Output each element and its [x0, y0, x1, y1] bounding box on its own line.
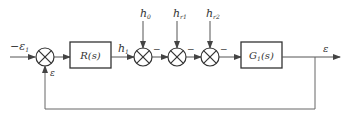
minus-sign-hr1: −	[187, 44, 195, 54]
block-G1-label: G1(s)	[249, 50, 274, 62]
input-label: −ε1	[10, 40, 29, 53]
block-G1: G1(s)	[241, 42, 282, 68]
h1-label: h1	[118, 42, 129, 55]
feedback-label: ε	[50, 68, 55, 78]
block-R-label: R(s)	[79, 50, 101, 61]
summing-junction-4	[201, 48, 219, 66]
summing-junction-2	[134, 48, 152, 66]
output-label: ε	[323, 43, 328, 54]
summing-junction-1	[36, 48, 54, 66]
input-signal: −ε1	[10, 40, 35, 57]
summing-junction-3	[168, 48, 186, 66]
disturbance-label-hr1: hr1	[173, 7, 187, 20]
block-R: R(s)	[70, 42, 111, 68]
minus-sign-hr2: −	[220, 44, 228, 54]
disturbance-label-h0: h0	[140, 7, 151, 20]
disturbance-label-hr2: hr2	[206, 7, 220, 20]
block-diagram: −ε1 ε R(s) h1 h0 −	[0, 0, 349, 118]
minus-sign-h0: −	[153, 44, 161, 54]
